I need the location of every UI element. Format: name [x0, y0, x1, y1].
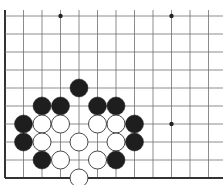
black-stone: [107, 151, 125, 169]
white-stone: [52, 151, 70, 169]
white-stone: [107, 115, 125, 133]
black-stone: [15, 133, 33, 151]
white-stone: [89, 115, 107, 133]
white-stone: [33, 115, 51, 133]
white-stone: [70, 169, 88, 185]
black-stone: [15, 115, 33, 133]
black-stone: [33, 97, 51, 115]
black-stone: [107, 97, 125, 115]
go-board-diagram: [0, 0, 223, 185]
black-stone: [89, 97, 107, 115]
black-stone: [70, 79, 88, 97]
black-stone: [33, 151, 51, 169]
star-point-icon: [169, 122, 173, 126]
black-stone: [126, 133, 144, 151]
white-stone: [33, 133, 51, 151]
black-stone: [52, 97, 70, 115]
white-stone: [70, 133, 88, 151]
white-stone: [52, 115, 70, 133]
white-stone: [89, 151, 107, 169]
star-point-icon: [58, 14, 62, 18]
star-point-icon: [169, 14, 173, 18]
black-stone: [126, 115, 144, 133]
white-stone: [107, 133, 125, 151]
